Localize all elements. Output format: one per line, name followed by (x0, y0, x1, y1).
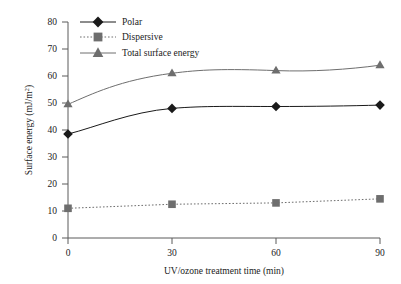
y-tick-label: 70 (48, 44, 58, 54)
y-tick-label: 50 (48, 98, 58, 108)
series-polar (63, 100, 385, 139)
x-tick-label: 90 (375, 248, 385, 258)
series-line-total (68, 65, 380, 104)
axes-group (68, 22, 380, 238)
y-tick-label: 40 (48, 125, 58, 135)
legend-label-polar: Polar (122, 17, 143, 27)
data-point-marker-square (272, 199, 280, 207)
line-chart: 0 10 20 30 40 50 60 70 80 0 30 60 90 UV/… (0, 0, 401, 284)
x-axis-ticks: 0 30 60 90 (66, 238, 385, 258)
y-axis-title-tail: ) (24, 85, 35, 88)
x-axis-title: UV/ozone treatment time (min) (164, 266, 284, 277)
data-point-marker-diamond (271, 102, 281, 112)
data-point-marker-diamond (167, 104, 177, 114)
data-point-marker-square (64, 205, 72, 213)
y-axis-title-base: Surface energy (mJ/m (24, 91, 35, 175)
x-tick-label: 0 (66, 248, 71, 258)
legend-entry-polar[interactable]: Polar (80, 17, 143, 28)
svg-text:Surface energy (mJ/m2): Surface energy (mJ/m2) (23, 85, 36, 175)
legend-label-total: Total surface energy (122, 48, 199, 58)
legend-label-dispersive: Dispersive (122, 32, 163, 42)
series-total-surface-energy (63, 60, 384, 107)
series-line-dispersive (68, 199, 380, 208)
legend-marker-square-icon (94, 33, 103, 42)
legend-entry-dispersive[interactable]: Dispersive (80, 32, 163, 42)
data-point-marker-diamond (375, 100, 385, 110)
x-tick-label: 60 (271, 248, 281, 258)
data-point-marker-square (376, 195, 384, 203)
y-axis-title: Surface energy (mJ/m2) (23, 85, 36, 175)
y-tick-label: 0 (52, 233, 57, 243)
series-line-polar (68, 105, 380, 134)
y-tick-label: 10 (48, 206, 58, 216)
legend-entry-total-surface-energy[interactable]: Total surface energy (80, 47, 199, 58)
data-point-marker-triangle (271, 66, 280, 74)
y-tick-label: 80 (48, 17, 58, 27)
chart-figure: 0 10 20 30 40 50 60 70 80 0 30 60 90 UV/… (0, 0, 401, 284)
data-point-marker-square (168, 200, 176, 208)
x-tick-label: 30 (167, 248, 177, 258)
series-dispersive (64, 195, 384, 212)
chart-legend: Polar Dispersive Total surface energy (80, 17, 199, 59)
data-point-marker-triangle (167, 68, 176, 76)
data-point-marker-diamond (63, 129, 73, 139)
y-tick-label: 30 (48, 152, 58, 162)
y-tick-label: 20 (48, 179, 58, 189)
legend-marker-triangle-icon (93, 47, 104, 57)
legend-marker-diamond-icon (93, 17, 104, 28)
y-tick-label: 60 (48, 71, 58, 81)
data-point-marker-triangle (375, 60, 384, 68)
